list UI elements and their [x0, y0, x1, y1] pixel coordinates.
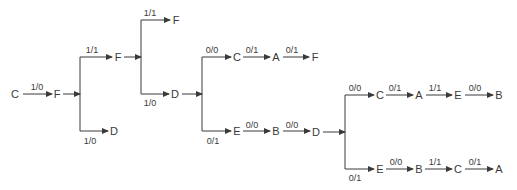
- state-node: D: [312, 127, 320, 138]
- splits-layer: [63, 20, 345, 169]
- transition-label: 0/1: [207, 137, 220, 146]
- state-node: E: [454, 90, 461, 101]
- state-node: C: [376, 90, 384, 101]
- transition-label: 0/0: [349, 84, 362, 93]
- transition-label: 1/0: [144, 99, 157, 108]
- state-node: D: [171, 89, 179, 100]
- state-node: C: [233, 52, 241, 63]
- state-node: B: [495, 90, 502, 101]
- state-node: F: [312, 52, 319, 63]
- state-node: C: [454, 164, 462, 175]
- transition-label: 1/1: [144, 9, 157, 18]
- transition-label: 0/1: [389, 84, 402, 93]
- transition-label: 0/0: [206, 46, 219, 55]
- state-node: E: [233, 126, 240, 137]
- transition-label: 1/1: [429, 158, 442, 167]
- state-node: C: [11, 89, 19, 100]
- transition-label: 0/0: [286, 121, 299, 130]
- transition-label: 0/1: [286, 46, 299, 55]
- transition-label: 1/1: [86, 46, 99, 55]
- transition-label: 0/0: [246, 121, 259, 130]
- state-node: A: [495, 164, 502, 175]
- transition-label: 1/0: [31, 83, 44, 92]
- state-node: B: [272, 126, 279, 137]
- state-node: A: [272, 52, 279, 63]
- state-node: B: [415, 164, 422, 175]
- state-tree-diagram: 1/01/11/01/11/00/00/10/10/10/00/00/00/11…: [0, 0, 517, 190]
- transition-label: 0/0: [390, 158, 403, 167]
- state-node: F: [54, 89, 61, 100]
- transition-label: 0/1: [246, 46, 259, 55]
- transition-label: 1/1: [429, 84, 442, 93]
- transition-label: 0/1: [469, 158, 482, 167]
- state-node: F: [115, 52, 122, 63]
- state-node: D: [110, 126, 118, 137]
- state-node: A: [415, 90, 422, 101]
- transition-label: 0/1: [349, 174, 362, 183]
- transition-label: 0/0: [469, 84, 482, 93]
- state-node: E: [376, 164, 383, 175]
- transition-label: 1/0: [84, 137, 97, 146]
- state-node: F: [173, 15, 180, 26]
